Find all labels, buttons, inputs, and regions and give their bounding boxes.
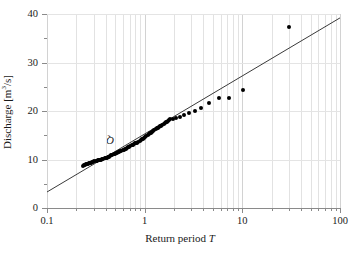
data-point bbox=[227, 96, 231, 100]
data-point bbox=[187, 111, 191, 115]
plot-area: 0.1110100010203040 bbox=[47, 14, 340, 209]
x-tick-label: 1 bbox=[142, 215, 147, 227]
data-point bbox=[287, 25, 291, 29]
y-tick-label: 10 bbox=[28, 154, 39, 166]
y-tick-label: 0 bbox=[33, 202, 38, 214]
data-point bbox=[178, 115, 182, 119]
x-gridline bbox=[340, 14, 341, 208]
data-point bbox=[217, 96, 221, 100]
x-tick bbox=[340, 208, 341, 213]
data-point bbox=[193, 109, 197, 113]
data-point bbox=[182, 113, 186, 117]
y-tick-label: 40 bbox=[28, 8, 39, 20]
y-tick-label: 20 bbox=[28, 105, 39, 117]
x-tick-label: 10 bbox=[237, 215, 248, 227]
chart-figure: Discharge Q [m3/s] 0.1110100010203040 Re… bbox=[0, 0, 360, 261]
x-tick-label: 100 bbox=[332, 215, 348, 227]
y-tick-label: 30 bbox=[28, 57, 39, 69]
data-point bbox=[241, 88, 245, 92]
x-tick-label: 0.1 bbox=[40, 215, 53, 227]
data-point bbox=[199, 106, 203, 110]
y-axis-title-text: Discharge Q [m3/s] bbox=[0, 75, 14, 149]
x-axis-title-text: Return period T bbox=[145, 232, 215, 244]
data-point bbox=[207, 101, 211, 105]
x-axis-title: Return period T bbox=[0, 232, 360, 245]
y-axis-title: Discharge Q [m3/s] bbox=[0, 0, 14, 261]
